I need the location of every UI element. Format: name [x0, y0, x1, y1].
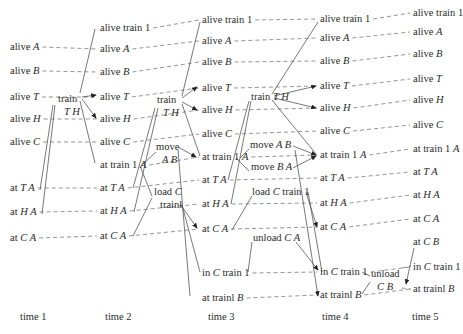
edge [182, 87, 197, 98]
proposition-aliveTrain1-text: alive train 1 [320, 13, 370, 24]
proposition-aliveB: alive B [202, 56, 231, 68]
proposition-aliveA-italic: A [123, 43, 129, 54]
proposition-atCA: at C A [320, 221, 346, 233]
time-label-4: time 4 [322, 311, 349, 322]
proposition-aliveA-text: alive [413, 26, 436, 37]
action-train23-line2: T H [163, 107, 179, 119]
proposition-aliveTrain1: alive train 1 [320, 13, 370, 25]
edge [42, 105, 55, 214]
proposition-aliveC-italic: C [123, 136, 130, 147]
proposition-aliveH-italic: H [225, 104, 233, 115]
persistence-aliveB-t3 [234, 61, 317, 62]
proposition-aliveA-italic: A [33, 41, 39, 52]
action-load34: load C train 1 [252, 186, 309, 198]
proposition-aliveB-italic: B [436, 48, 442, 59]
proposition-aliveT: alive T [202, 82, 231, 94]
action-load34-italic: C [273, 186, 280, 197]
proposition-aliveB-text: alive [100, 66, 123, 77]
proposition-aliveC: alive C [10, 136, 40, 148]
proposition-aliveT-text: alive [320, 80, 343, 91]
proposition-aliveT-text: alive [100, 91, 123, 102]
proposition-atTrain1B-italic: B [237, 292, 243, 303]
proposition-aliveC: alive C [413, 119, 443, 131]
proposition-aliveH: alive H [202, 104, 233, 116]
persistence-atTrain1A-t3 [251, 155, 317, 157]
persistence-atCA-t4 [349, 219, 410, 227]
edge [296, 242, 318, 270]
proposition-aliveA-text: alive [10, 41, 33, 52]
proposition-atTA-text: at [100, 182, 110, 193]
edge [272, 22, 318, 94]
proposition-aliveH-text: alive [100, 113, 123, 124]
action-train23-line1-text: train [157, 94, 176, 105]
proposition-inCTrain1-text: train 1 [431, 261, 461, 272]
action-train23-line1: train [157, 94, 176, 106]
proposition-aliveT-italic: T [123, 91, 129, 102]
action-moveBA34-italic: B A [277, 161, 292, 172]
proposition-aliveTrain1: alive train 1 [413, 7, 463, 19]
proposition-atTA-italic: T A [423, 166, 438, 177]
edge [80, 101, 95, 163]
proposition-atTA-text: at [320, 172, 330, 183]
proposition-aliveH-italic: H [123, 113, 131, 124]
edge [178, 150, 190, 296]
proposition-atHA-text: at [100, 205, 110, 216]
proposition-aliveB: alive B [100, 66, 129, 78]
proposition-atCA: at C A [413, 213, 439, 225]
proposition-aliveB-italic: B [343, 55, 349, 66]
action-train12-line1-text: train [58, 93, 77, 104]
proposition-atHA: at H A [413, 189, 440, 201]
action-moveAB23-line1: move [156, 141, 179, 153]
proposition-atTrain1B: at trainl B [413, 283, 454, 295]
proposition-aliveC-text: alive [202, 128, 225, 139]
action-moveAB23-line2: A B [162, 154, 177, 166]
proposition-aliveC: alive C [100, 136, 130, 148]
proposition-atHA: at H A [100, 205, 127, 217]
action-unload45-line2: C B [377, 281, 393, 293]
action-moveAB34-text: move [250, 139, 276, 150]
proposition-aliveH: alive H [100, 113, 131, 125]
proposition-atTA-italic: T A [110, 182, 125, 193]
action-moveBA34: move B A [251, 161, 292, 173]
proposition-atTrain1B-italic: B [448, 283, 454, 294]
edge [182, 102, 197, 110]
proposition-atTrain1A-italic: A [360, 149, 366, 160]
proposition-aliveC-text: alive [10, 136, 33, 147]
persistence-atCA-t3 [231, 227, 317, 229]
proposition-aliveB-italic: B [123, 66, 129, 77]
proposition-aliveC-italic: C [343, 125, 350, 136]
proposition-atCA: at C A [202, 223, 228, 235]
proposition-atTA: at T A [100, 182, 125, 194]
proposition-aliveA-italic: A [436, 26, 442, 37]
action-train23-line2-italic: T H [163, 107, 179, 118]
persistence-atTA-t3 [230, 178, 317, 180]
proposition-atCA-text: at [413, 213, 423, 224]
proposition-atTrain1A-text: at train 1 [100, 159, 140, 170]
action-load34-text: load [252, 186, 273, 197]
proposition-atTrain1A-text: at train 1 [413, 143, 453, 154]
proposition-inCTrain1-italic: C [213, 267, 220, 278]
proposition-atTA: at T A [202, 174, 227, 186]
proposition-inCTrain1-text: train 1 [338, 266, 368, 277]
proposition-aliveH-text: alive [10, 113, 33, 124]
persistence-atCA-t1 [39, 236, 97, 238]
graph-edges [0, 0, 463, 334]
proposition-atCA: at C A [100, 230, 126, 242]
proposition-atCA-text: at [100, 230, 110, 241]
proposition-aliveTrain1-text: alive train 1 [202, 14, 252, 25]
proposition-atTrain1A: at train 1 A [202, 151, 248, 163]
proposition-atHA-italic: H A [330, 197, 346, 208]
persistence-inCTrain1-t3 [253, 272, 317, 273]
persistence-atTA-t4 [348, 172, 410, 178]
proposition-aliveC: alive C [202, 128, 232, 140]
action-load34-text: train 1 [280, 186, 310, 197]
proposition-aliveC-text: alive [100, 136, 123, 147]
action-train34-italic: T H [273, 91, 289, 102]
action-unload45-line2-italic: C B [377, 281, 393, 292]
proposition-atTrain1A: at train 1 A [320, 149, 366, 161]
action-moveAB23-line1-text: move [156, 141, 179, 152]
proposition-atHA-italic: H A [423, 189, 439, 200]
proposition-aliveB-text: alive [320, 55, 343, 66]
proposition-aliveTrain1-text: alive train 1 [100, 22, 150, 33]
proposition-aliveT-text: alive [10, 91, 33, 102]
